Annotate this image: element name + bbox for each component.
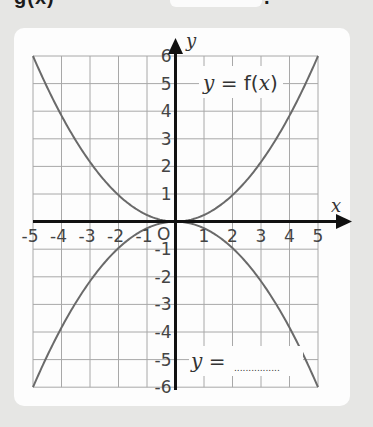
x-tick-label: -2 [107, 226, 124, 246]
x-tick-label: -1 [136, 226, 153, 246]
y-tick-label: -2 [155, 267, 172, 287]
upper-equation-label: y = f(x) [202, 71, 278, 95]
x-tick-label: -3 [79, 226, 96, 246]
lower-equation-label: y = [190, 349, 225, 373]
answer-blank[interactable]: ................ [234, 363, 280, 373]
y-tick-label: -4 [155, 322, 172, 342]
x-tick-label: 4 [284, 226, 295, 246]
x-axis-arrow-icon [336, 214, 352, 229]
x-tick-label: 1 [199, 226, 210, 246]
x-tick-label: -4 [50, 226, 67, 246]
y-tick-label: -5 [155, 350, 172, 370]
y-tick-label: 6 [161, 46, 172, 66]
y-tick-label: 3 [161, 129, 172, 149]
graph: -6-5-4-3-2-1123456 -5-4-3-2-112345 x y O… [0, 0, 373, 427]
x-tick-label: 3 [256, 226, 267, 246]
y-tick-label: 2 [161, 156, 172, 176]
y-axis-label: y [185, 30, 197, 51]
y-tick-label: 1 [161, 184, 172, 204]
y-tick-label: 4 [161, 101, 172, 121]
y-tick-label: -6 [155, 377, 172, 397]
x-axis-label: x [331, 195, 341, 216]
x-tick-label: 5 [313, 226, 324, 246]
origin-label: O [157, 224, 170, 244]
x-tick-labels: -5-4-3-2-112345 [22, 226, 324, 246]
y-tick-label: 5 [161, 74, 172, 94]
x-tick-label: 2 [227, 226, 238, 246]
x-tick-label: -5 [22, 226, 39, 246]
y-tick-label: -3 [155, 294, 172, 314]
